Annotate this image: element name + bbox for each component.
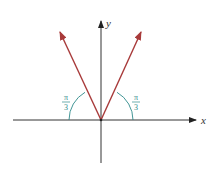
origin-point bbox=[100, 119, 103, 122]
right-angle-label: π 3 bbox=[132, 93, 140, 112]
left-angle-label: π 3 bbox=[62, 93, 70, 112]
diagram-canvas: x y π 3 π 3 bbox=[0, 0, 218, 176]
svg-text:3: 3 bbox=[134, 103, 138, 112]
svg-text:3: 3 bbox=[64, 103, 68, 112]
left-angle-arc bbox=[69, 92, 85, 120]
right-angle-arc bbox=[117, 92, 133, 120]
x-axis-label: x bbox=[200, 114, 206, 126]
svg-text:π: π bbox=[134, 93, 138, 102]
svg-text:π: π bbox=[64, 93, 68, 102]
y-axis-label: y bbox=[105, 17, 111, 29]
